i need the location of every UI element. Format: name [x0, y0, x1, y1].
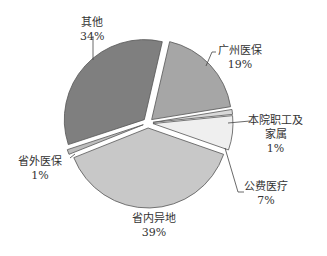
label-outprov: 省外医保 1%: [18, 155, 62, 183]
label-public-name: 公费医疗: [244, 180, 288, 194]
label-other: 其他 34%: [80, 16, 104, 44]
label-other-name: 其他: [80, 16, 104, 30]
label-outprov-name: 省外医保: [18, 155, 62, 169]
label-inprov-pct: 39%: [132, 226, 176, 240]
label-inprov: 省内异地 39%: [132, 212, 176, 240]
label-other-pct: 34%: [80, 30, 104, 44]
label-staff-name1: 本院职工及: [248, 114, 303, 128]
leader-public: [225, 148, 244, 192]
label-guangzhou-pct: 19%: [218, 58, 262, 72]
label-guangzhou-name: 广州医保: [218, 44, 262, 58]
label-guangzhou: 广州医保 19%: [218, 44, 262, 72]
label-public: 公费医疗 7%: [244, 180, 288, 208]
label-inprov-name: 省内异地: [132, 212, 176, 226]
label-outprov-pct: 1%: [18, 169, 62, 183]
label-staff: 本院职工及 家属 1%: [248, 114, 303, 156]
label-staff-name2: 家属: [248, 128, 303, 142]
label-staff-pct: 1%: [248, 142, 303, 156]
label-public-pct: 7%: [244, 194, 288, 208]
